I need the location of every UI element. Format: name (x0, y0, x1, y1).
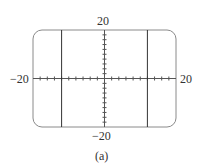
figure-caption: (a) (95, 150, 108, 162)
x-min-label: −20 (10, 73, 29, 85)
axes (33, 30, 176, 127)
y-min-label: −20 (92, 130, 111, 142)
x-max-label: 20 (180, 73, 192, 85)
y-max-label: 20 (97, 15, 109, 27)
